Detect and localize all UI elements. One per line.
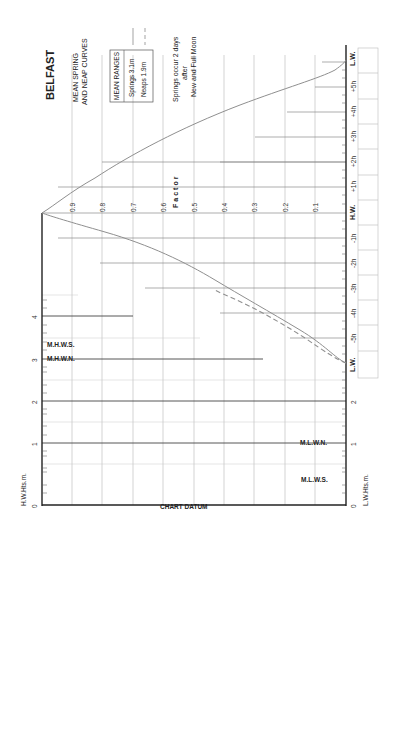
factor-tick-0.2: 0.2: [282, 203, 289, 212]
time-tick-minus5: -5h: [350, 334, 357, 343]
mlwn-label: M.L.W.N.: [300, 439, 327, 446]
legend-neaps: Neaps 1.9m: [140, 62, 147, 97]
neaps-curve: [215, 290, 346, 363]
lw-height-tick-2: 2: [350, 400, 357, 404]
time-tick-plus3: +3h: [350, 131, 357, 142]
factor-tick-0.9: 0.9: [69, 203, 76, 212]
subtitle-line1: MEAN SPRING: [72, 53, 79, 102]
factor-tick-0.6: 0.6: [160, 203, 167, 212]
time-tick-minus2: -2h: [350, 259, 357, 268]
legend-springs: Springs 3.1m: [128, 59, 135, 97]
factor-tick-0.5: 0.5: [191, 203, 198, 212]
lw-height-tick-0: 0: [350, 504, 357, 508]
time-tick-lw-start: L.W.: [349, 358, 356, 372]
time-tick-plus2: +2h: [350, 156, 357, 167]
chart-datum-label: CHART DATUM: [160, 503, 208, 510]
subtitle-line2: AND NEAP CURVES: [81, 38, 88, 105]
lw-heights-label: L.W.Hts.m.: [362, 474, 369, 506]
hw-height-tick-4: 4: [31, 315, 38, 319]
factor-gridlines: [72, 55, 315, 505]
time-tick-hw: H.W.: [349, 205, 356, 220]
factor-tick-0.4: 0.4: [221, 203, 228, 212]
time-tick-minus1: -1h: [350, 234, 357, 243]
factor-tick-0.3: 0.3: [251, 203, 258, 212]
mlws-label: M.L.W.S.: [301, 476, 328, 483]
hw-heights-label: H.W.Hts.m.: [20, 473, 27, 506]
mhws-label: M.H.W.S.: [47, 341, 74, 348]
mhwn-label: M.H.W.N.: [47, 355, 75, 362]
factor-tick-0.8: 0.8: [99, 203, 106, 212]
hw-height-tick-0: 0: [31, 504, 38, 508]
hw-height-tick-2: 2: [31, 400, 38, 404]
factor-tick-0.1: 0.1: [312, 203, 319, 212]
hw-height-tick-1: 1: [31, 442, 38, 446]
time-tick-minus4: -4h: [350, 309, 357, 318]
note-line3: New and Full Moon: [190, 37, 197, 97]
chart-title: BELFAST: [44, 50, 56, 100]
lw-height-tick-1: 1: [350, 442, 357, 446]
factor-label: Factor: [172, 175, 179, 208]
time-tick-lw-end: L.W.: [349, 52, 356, 66]
legend-lines: [133, 28, 145, 45]
time-tick-plus1: +1h: [350, 181, 357, 192]
time-tick-plus4: +4h: [350, 106, 357, 117]
chart-svg: [0, 0, 398, 740]
hw-height-tick-3: 3: [31, 358, 38, 362]
time-box-column: [358, 48, 378, 378]
legend-header: MEAN RANGES: [113, 52, 120, 100]
time-tick-minus3: -3h: [350, 284, 357, 293]
factor-tick-0.7: 0.7: [130, 203, 137, 212]
note-line2: after: [181, 66, 188, 80]
time-tick-plus5: +5h: [350, 81, 357, 92]
tidal-curve-chart: BELFAST MEAN SPRING AND NEAP CURVES MEAN…: [0, 0, 398, 740]
note-line1: Springs occur 2 days: [172, 37, 179, 102]
